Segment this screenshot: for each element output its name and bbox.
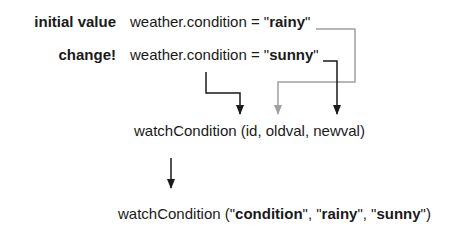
- black-arrow-id: [206, 72, 240, 114]
- gray-arrow-oldval: [278, 29, 355, 114]
- connector-arrows: [0, 0, 461, 240]
- black-arrow-newval: [323, 61, 337, 114]
